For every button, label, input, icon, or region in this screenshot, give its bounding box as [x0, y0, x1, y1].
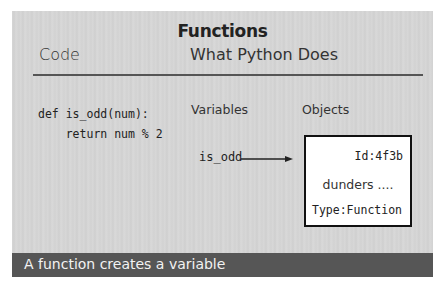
object-type: Type:Function	[312, 203, 402, 217]
caption-banner: A function creates a variable	[12, 253, 433, 277]
variable-name: is_odd	[199, 150, 242, 164]
code-column-header: Code	[39, 45, 80, 64]
object-dunders: dunders ....	[306, 177, 410, 192]
caption-text: A function creates a variable	[24, 256, 225, 272]
slide: Functions Code What Python Does def is_o…	[12, 11, 433, 277]
code-snippet: def is_odd(num): return num % 2	[38, 104, 163, 144]
header-divider	[33, 74, 423, 76]
python-column-header: What Python Does	[190, 45, 338, 64]
function-object-box: Id:4f3b dunders .... Type:Function	[304, 135, 412, 227]
objects-label: Objects	[302, 102, 349, 117]
object-id: Id:4f3b	[355, 149, 403, 163]
right-arrow-icon	[241, 155, 293, 163]
slide-title: Functions	[12, 21, 433, 41]
variables-label: Variables	[191, 102, 248, 117]
